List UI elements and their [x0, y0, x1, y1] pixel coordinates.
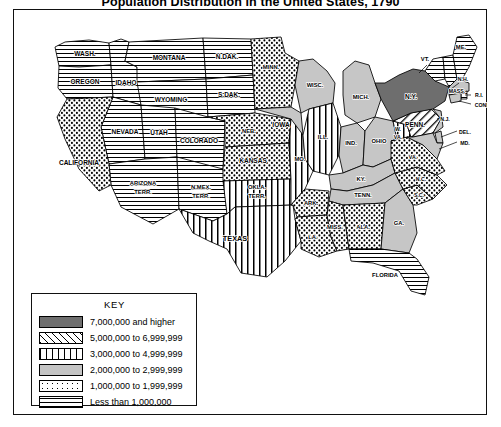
region-minn [251, 37, 299, 109]
svg-text:CALIFORNIA: CALIFORNIA [59, 159, 99, 166]
svg-text:ILL.: ILL. [318, 134, 329, 140]
svg-text:MO.: MO. [295, 156, 306, 162]
region-mich [343, 61, 381, 123]
svg-text:TEXAS: TEXAS [223, 234, 247, 243]
svg-text:IDAHO: IDAHO [116, 79, 137, 86]
legend-label: 2,000,000 to 2,999,999 [90, 365, 183, 375]
legend-label: 5,000,000 to 6,999,999 [90, 333, 183, 343]
svg-text:LA.: LA. [308, 234, 318, 240]
svg-text:FLORIDA: FLORIDA [372, 272, 399, 278]
legend-row: 1,000,000 to 1,999,999 [39, 378, 190, 393]
svg-text:N.J.: N.J. [440, 116, 450, 122]
svg-text:N.MEX.: N.MEX. [191, 184, 211, 190]
map-legend: KEY 7,000,000 and higher 5,000,000 to 6,… [31, 293, 197, 406]
svg-text:S.C.: S.C. [414, 192, 425, 198]
svg-text:N.Y.: N.Y. [405, 93, 417, 100]
svg-text:VA.: VA. [394, 134, 403, 140]
svg-text:VA.: VA. [409, 154, 418, 160]
svg-text:ME.: ME. [456, 44, 467, 50]
legend-swatch-2m-to-3m [39, 364, 83, 376]
svg-text:COLORADO: COLORADO [180, 137, 218, 144]
svg-text:ARK.: ARK. [304, 200, 319, 206]
legend-row: Less than 1,000,000 [39, 394, 190, 409]
svg-text:OHIO: OHIO [372, 138, 387, 144]
svg-text:PENN.: PENN. [405, 121, 425, 128]
svg-text:NEB.: NEB. [242, 128, 256, 134]
svg-text:CONN.: CONN. [475, 102, 487, 108]
svg-text:MISS.: MISS. [327, 224, 343, 230]
svg-text:OREGON: OREGON [71, 78, 100, 85]
svg-text:MASS.: MASS. [449, 88, 466, 94]
legend-label: 1,000,000 to 1,999,999 [90, 381, 183, 391]
legend-swatch-less-than-1m [39, 396, 83, 408]
svg-text:NEVADA: NEVADA [112, 128, 139, 135]
legend-row: 2,000,000 to 2,999,999 [39, 362, 190, 377]
region-california [57, 97, 113, 191]
legend-swatch-7m-and-higher [39, 316, 83, 328]
svg-text:WISC.: WISC. [307, 82, 324, 88]
svg-text:S.DAK.: S.DAK. [218, 91, 240, 98]
legend-row: 5,000,000 to 6,999,999 [39, 330, 190, 345]
legend-label: 7,000,000 and higher [90, 317, 175, 327]
region-conn [449, 93, 461, 103]
svg-text:VT.: VT. [421, 56, 430, 62]
svg-text:MINN.: MINN. [263, 64, 280, 70]
svg-text:KANSAS: KANSAS [239, 157, 267, 164]
legend-swatch-5m-to-7m [39, 332, 83, 344]
svg-text:MD.: MD. [460, 140, 470, 146]
svg-text:R.I.: R.I. [475, 92, 484, 98]
svg-text:TERR.: TERR. [192, 193, 210, 199]
svg-text:ALA.: ALA. [356, 224, 370, 230]
svg-text:GA.: GA. [394, 220, 405, 226]
legend-row: 3,000,000 to 4,999,999 [39, 346, 190, 361]
legend-swatch-1m-to-2m [39, 380, 83, 392]
svg-text:TERR.: TERR. [134, 189, 152, 195]
legend-heading: KEY [39, 299, 190, 310]
svg-text:MICH.: MICH. [353, 94, 370, 100]
svg-text:W.: W. [395, 126, 402, 132]
svg-text:OKLA.: OKLA. [248, 184, 266, 190]
svg-text:UTAH: UTAH [150, 129, 168, 136]
svg-text:TENN.: TENN. [354, 192, 372, 198]
svg-text:ARIZONA: ARIZONA [130, 180, 157, 186]
svg-text:DEL.: DEL. [459, 129, 471, 135]
svg-text:WYOMING: WYOMING [155, 96, 188, 103]
region-me [453, 35, 477, 81]
svg-text:IND.: IND. [345, 140, 357, 146]
svg-text:N.C.: N.C. [416, 176, 427, 182]
legend-label: Less than 1,000,000 [90, 397, 172, 407]
page-title: Population Distribution in the United St… [0, 0, 501, 9]
svg-text:IOWA: IOWA [272, 121, 290, 128]
legend-label: 3,000,000 to 4,999,999 [90, 349, 183, 359]
svg-text:WASH.: WASH. [74, 50, 96, 57]
svg-text:N.H.: N.H. [458, 76, 469, 82]
svg-text:TERR.: TERR. [248, 193, 266, 199]
svg-text:N.DAK.: N.DAK. [216, 53, 239, 60]
svg-text:MONTANA: MONTANA [153, 54, 186, 61]
legend-swatch-3m-to-5m [39, 348, 83, 360]
svg-text:KY.: KY. [356, 176, 365, 182]
legend-row: 7,000,000 and higher [39, 314, 190, 329]
